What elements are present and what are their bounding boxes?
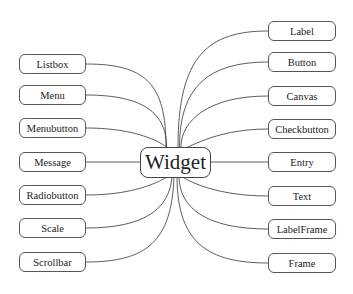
edge-frame bbox=[177, 176, 268, 263]
edge-menubutton bbox=[86, 128, 167, 147]
widget-node: Widget bbox=[140, 147, 211, 178]
right-node-labelframe: LabelFrame bbox=[268, 219, 336, 239]
edge-listbox bbox=[86, 64, 166, 147]
left-node-radiobutton: Radiobutton bbox=[19, 185, 86, 205]
right-node-text: Text bbox=[268, 186, 336, 206]
left-node-scrollbar: Scrollbar bbox=[19, 252, 86, 272]
left-node-menubutton: Menubutton bbox=[19, 118, 86, 138]
edge-labelframe bbox=[179, 176, 268, 229]
right-node-frame: Frame bbox=[268, 253, 336, 273]
edge-scrollbar bbox=[86, 176, 174, 262]
edge-canvas bbox=[181, 96, 268, 147]
right-node-canvas: Canvas bbox=[268, 86, 336, 106]
right-node-button: Button bbox=[268, 52, 336, 72]
edge-menu bbox=[86, 95, 167, 147]
left-node-scale: Scale bbox=[19, 218, 86, 238]
left-node-message: Message bbox=[19, 152, 86, 172]
right-node-checkbutton: Checkbutton bbox=[268, 119, 336, 139]
edge-scale bbox=[86, 176, 172, 228]
edge-text bbox=[181, 176, 268, 196]
right-node-label: Label bbox=[268, 21, 336, 41]
edge-radiobutton bbox=[86, 176, 170, 195]
edge-checkbutton bbox=[183, 129, 269, 148]
left-node-menu: Menu bbox=[19, 85, 86, 105]
right-node-entry: Entry bbox=[268, 152, 336, 172]
left-node-listbox: Listbox bbox=[19, 54, 86, 74]
